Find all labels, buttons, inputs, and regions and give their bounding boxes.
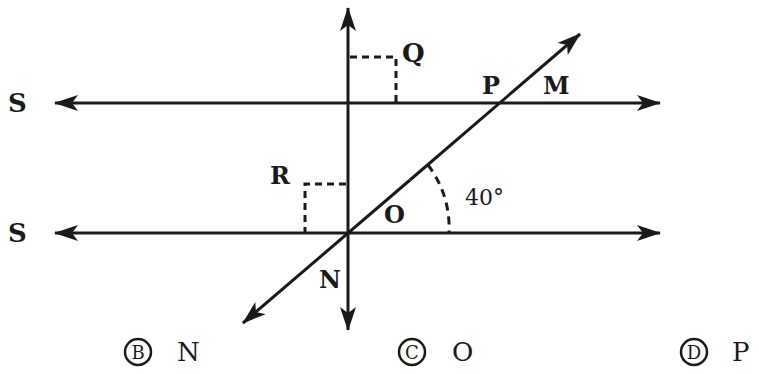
option-c-value: O — [452, 337, 473, 367]
option-d[interactable]: D P — [681, 337, 750, 367]
label-r: R — [270, 161, 291, 190]
label-o: O — [384, 200, 405, 229]
option-b-value: N — [177, 337, 200, 367]
label-s-bottom: S — [8, 218, 27, 248]
right-angle-marker-q — [350, 57, 396, 103]
option-b[interactable]: B N — [125, 337, 200, 367]
label-s-top: S — [8, 88, 27, 118]
angle-arc-40 — [428, 165, 449, 233]
option-b-letter: B — [131, 342, 144, 363]
geometry-diagram: S S Q P M R O N 40° B N C O D P — [0, 0, 759, 374]
label-p: P — [482, 71, 500, 100]
option-c[interactable]: C O — [399, 337, 473, 367]
label-n: N — [319, 265, 341, 294]
label-m: M — [543, 71, 570, 100]
option-d-letter: D — [687, 342, 701, 363]
right-angle-marker-r — [305, 184, 346, 233]
angle-label: 40° — [465, 185, 504, 210]
diagonal-line — [243, 34, 580, 323]
label-q: Q — [402, 38, 425, 68]
option-c-letter: C — [405, 342, 419, 363]
option-d-value: P — [732, 337, 750, 367]
